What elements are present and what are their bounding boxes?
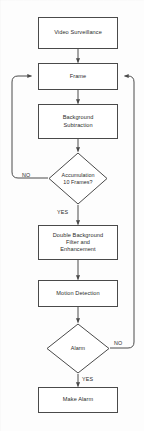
- node-label-alarm-text: Alarm: [71, 345, 85, 351]
- node-alarm-decision[interactable]: Alarm: [46, 323, 110, 374]
- edge-label-alarm-no: NO: [114, 340, 122, 346]
- node-label-double-background-filter-line1: Double Background: [53, 232, 104, 239]
- node-label-motion-detection: Motion Detection: [56, 290, 99, 297]
- node-label-background-subtraction-line1: Background: [63, 114, 94, 121]
- node-video-surveillance[interactable]: Video Surveillance: [38, 17, 118, 49]
- node-label-double-background-filter-line3: Enhancement: [60, 246, 95, 253]
- node-background-subtraction[interactable]: Background Subtraction: [38, 104, 118, 139]
- edge-label-alarm-yes: YES: [82, 376, 93, 382]
- node-label-alarm-decision: Alarm: [46, 345, 110, 352]
- node-label-frame: Frame: [70, 73, 87, 80]
- flowchart-diagram: Video Surveillance Frame Background Subt…: [0, 0, 144, 431]
- node-label-double-background-filter-line2: Filter and: [66, 239, 90, 246]
- node-make-alarm[interactable]: Make Alarm: [38, 387, 118, 413]
- node-motion-detection[interactable]: Motion Detection: [38, 280, 118, 307]
- node-label-accumulation-line1: Accumulation: [49, 172, 107, 179]
- node-label-accumulation-line2: 10 Frames?: [49, 179, 107, 186]
- node-label-accumulation-decision: Accumulation 10 Frames?: [48, 172, 108, 185]
- edge-label-accumulation-yes: YES: [57, 209, 68, 215]
- node-label-video-surveillance: Video Surveillance: [54, 29, 102, 36]
- node-accumulation-decision[interactable]: Accumulation 10 Frames?: [48, 152, 108, 205]
- node-label-background-subtraction-line2: Subtraction: [63, 122, 92, 129]
- node-label-make-alarm: Make Alarm: [63, 396, 93, 403]
- node-double-background-filter[interactable]: Double Background Filter and Enhancement: [38, 225, 118, 260]
- edge-label-accumulation-no: NO: [22, 172, 30, 178]
- node-frame[interactable]: Frame: [38, 63, 118, 90]
